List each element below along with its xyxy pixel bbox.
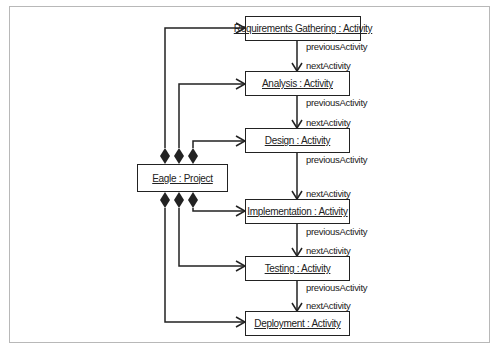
object-label: Eagle : Project [152, 173, 213, 184]
role-label-next: nextActivity [306, 245, 350, 256]
composition-line-implementation [193, 208, 245, 211]
object-label: Implementation : Activity [247, 206, 347, 217]
diamond-icon [188, 192, 198, 208]
activity-object-requirements[interactable]: Requirements Gathering : Activity [245, 16, 361, 41]
diamond-icon [174, 192, 184, 208]
diamond-icon [160, 192, 170, 208]
diamond-icon [188, 148, 198, 164]
composition-line-requirements [165, 28, 245, 148]
object-label: Deployment : Activity [254, 318, 341, 329]
composition-line-analysis [179, 84, 245, 148]
role-label-previous: previousActivity [306, 154, 367, 165]
activity-object-testing[interactable]: Testing : Activity [245, 256, 350, 281]
role-label-previous: previousActivity [306, 41, 367, 52]
diamond-icon [160, 148, 170, 164]
project-object-eagle[interactable]: Eagle : Project [137, 164, 228, 192]
activity-object-design[interactable]: Design : Activity [245, 128, 350, 153]
role-label-previous: previousActivity [306, 282, 367, 293]
composition-line-testing [179, 208, 245, 266]
object-label: Analysis : Activity [262, 78, 333, 89]
object-label: Requirements Gathering : Activity [234, 23, 373, 34]
activity-object-deployment[interactable]: Deployment : Activity [245, 311, 350, 336]
composition-line-deployment [165, 208, 245, 322]
role-label-previous: previousActivity [306, 226, 367, 237]
role-label-next: nextActivity [306, 300, 350, 311]
role-label-next: nextActivity [306, 188, 350, 199]
role-label-previous: previousActivity [306, 97, 367, 108]
activity-object-implementation[interactable]: Implementation : Activity [245, 199, 350, 224]
role-label-next: nextActivity [306, 117, 350, 128]
role-label-next: nextActivity [306, 60, 350, 71]
object-label: Testing : Activity [265, 263, 331, 274]
object-label: Design : Activity [265, 135, 330, 146]
diamond-icon [174, 148, 184, 164]
connector-layer [0, 0, 499, 349]
activity-object-analysis[interactable]: Analysis : Activity [245, 71, 350, 96]
